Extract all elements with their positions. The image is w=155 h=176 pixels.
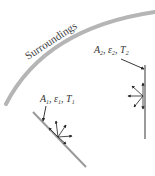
surface-1 (33, 112, 86, 167)
surface-2-leader-arrow (121, 59, 144, 69)
surface-2-radiation-arrows (128, 83, 143, 109)
surface-1-label: A1, ε1, T1 (39, 93, 75, 105)
radiation-exchange-diagram: Surroundings A2, ε2, T2 A1, ε1, T1 (0, 0, 155, 176)
surface-2-label: A2, ε2, T2 (93, 44, 129, 56)
surface-1-leader-arrow (43, 106, 46, 121)
